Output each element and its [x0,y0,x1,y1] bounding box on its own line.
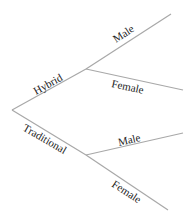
label-hybrid-female: Female [111,77,145,95]
tree-diagram: Hybrid Male Female Traditional Male Fema… [0,0,191,217]
label-traditional: Traditional [21,121,69,156]
edge-traditional-female [86,155,168,210]
label-traditional-male: Male [117,131,142,148]
label-hybrid-male: Male [111,22,137,44]
label-hybrid: Hybrid [31,71,65,97]
